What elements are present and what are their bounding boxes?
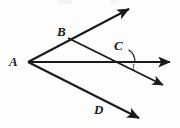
ray-ab-line [28,9,129,62]
angle-label-1: 1 [131,63,136,72]
point-label-b: B [57,25,66,38]
point-label-a: A [9,55,18,68]
ray-ad-line [28,62,139,118]
angle-1-arc [129,50,135,62]
geometry-figure: A B C D 1 [0,0,180,128]
figure-canvas [0,0,180,128]
point-label-d: D [94,103,103,116]
point-label-c: C [114,39,123,52]
